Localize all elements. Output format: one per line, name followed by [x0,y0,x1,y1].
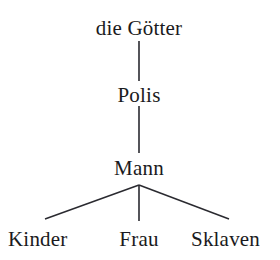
hierarchy-diagram: die Götter Polis Mann Kinder Frau Sklave… [0,0,280,260]
node-polis: Polis [117,85,160,106]
node-kinder: Kinder [8,229,68,250]
node-sklaven: Sklaven [191,229,260,250]
edge-mann-to-kinder [45,185,139,219]
node-die-goetter: die Götter [96,18,183,39]
node-mann: Mann [114,158,164,179]
edge-mann-to-sklaven [139,185,229,219]
node-frau: Frau [119,229,158,250]
